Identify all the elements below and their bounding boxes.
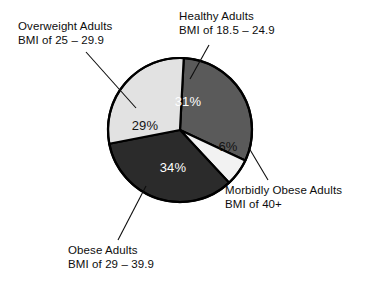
callout-obese-adults: Obese Adults BMI of 29 – 39.9 xyxy=(68,243,154,271)
callout-overweight-adults: Overweight Adults BMI of 25 – 29.9 xyxy=(18,19,112,47)
leader-line-morbid xyxy=(249,148,268,180)
callout-healthy-line2: BMI of 18.5 – 24.9 xyxy=(179,23,275,37)
leader-line-obese xyxy=(118,186,146,240)
callout-overweight-line2: BMI of 25 – 29.9 xyxy=(18,33,112,47)
callout-morbid-line1: Morbidly Obese Adults xyxy=(225,184,342,196)
slice-value-overweight: 29% xyxy=(132,118,159,133)
pie-chart-figure: 31% 29% 34% 6% Overweight Adults BMI of … xyxy=(0,0,376,286)
slice-value-healthy: 31% xyxy=(175,94,202,109)
callout-morbid-line2: BMI of 40+ xyxy=(225,197,342,211)
slice-value-obese: 34% xyxy=(160,160,187,175)
callout-healthy-adults: Healthy Adults BMI of 18.5 – 24.9 xyxy=(179,9,275,37)
callout-obese-line1: Obese Adults xyxy=(68,244,138,256)
callout-overweight-line1: Overweight Adults xyxy=(18,20,112,32)
callout-morbidly-obese-adults: Morbidly Obese Adults BMI of 40+ xyxy=(225,183,342,211)
callout-obese-line2: BMI of 29 – 39.9 xyxy=(68,257,154,271)
slice-value-morbid: 6% xyxy=(218,139,237,154)
callout-healthy-line1: Healthy Adults xyxy=(179,10,254,22)
